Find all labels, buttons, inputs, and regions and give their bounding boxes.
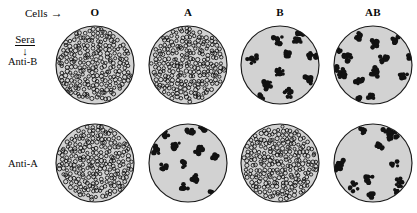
cells-axis-label: Cells→ [25,6,63,21]
well-anti-a-b [240,123,320,203]
column-header-b: B [260,6,300,18]
column-header-a: A [168,6,208,18]
well-anti-b-b [240,25,320,105]
well-anti-b-ab [333,25,413,105]
cells-arrow-icon: → [51,6,63,21]
sera-arrow-icon: ↓ [8,47,42,56]
column-header-ab: AB [353,6,393,18]
blood-typing-figure: Cells→ Sera ↓ OABAB Anti-BAnti-A [0,0,417,213]
well-anti-a-ab [333,123,413,203]
row-label-anti-b: Anti-B [8,56,37,67]
sera-axis-label: Sera ↓ [8,29,42,56]
well-anti-a-a [148,123,228,203]
well-anti-a-o [55,123,135,203]
row-label-anti-a: Anti-A [8,158,38,169]
column-header-o: O [75,6,115,18]
cells-label-text: Cells [25,7,48,19]
well-anti-b-a [148,25,228,105]
well-anti-b-o [55,25,135,105]
